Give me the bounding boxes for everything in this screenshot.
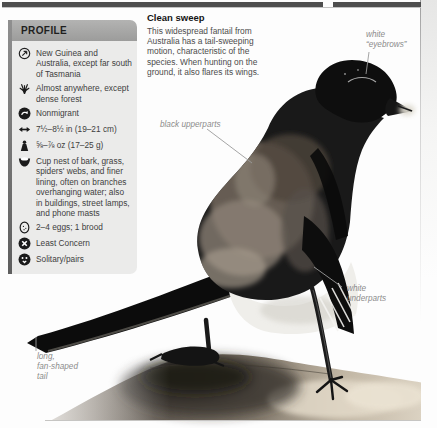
annotation-line: white: [347, 284, 386, 294]
leader-line-upperparts: [207, 129, 252, 163]
profile-item-text: Cup nest of bark, grass, spiders' webs, …: [36, 156, 132, 218]
annotation-line: tail: [37, 372, 78, 382]
profile-item-text: New Guinea and Australia, except far sou…: [36, 48, 132, 79]
profile-item-text: ⅝–⅞ oz (17–25 g): [36, 140, 103, 150]
feature-block: Clean sweep This widespread fantail from…: [147, 12, 277, 77]
profile-item-nest: Cup nest of bark, grass, spiders' webs, …: [18, 156, 132, 218]
profile-body: New Guinea and Australia, except far sou…: [12, 41, 137, 274]
page-right-margin: [421, 0, 437, 428]
profile-item-status: Least Concern: [18, 238, 132, 250]
annotation-white-eyebrows: white “eyebrows”: [366, 30, 407, 50]
annotation-line: black upperparts: [160, 120, 221, 130]
feature-body: This widespread fantail from Australia h…: [147, 26, 277, 77]
profile-item-text: 7½–8½ in (19–21 cm): [36, 124, 117, 134]
insect-in-beak: [399, 105, 415, 116]
annotation-line: long,: [37, 352, 78, 362]
annotation-line: fan-shaped: [37, 362, 78, 372]
weight-icon: [18, 139, 31, 152]
annotation-line: underparts: [347, 294, 386, 304]
social-icon: [18, 253, 31, 266]
habitat-icon: [18, 82, 31, 95]
eggs-icon: [18, 221, 31, 234]
nest-icon: [18, 155, 31, 168]
profile-item-text: Nonmigrant: [36, 108, 79, 118]
length-icon: [18, 123, 31, 136]
profile-title: PROFILE: [12, 20, 137, 41]
profile-item-weight: ⅝–⅞ oz (17–25 g): [18, 140, 132, 152]
profile-item-text: Almost anywhere, except dense forest: [36, 83, 132, 104]
page-right-margin-line: [420, 0, 421, 428]
profile-item-text: Solitary/pairs: [36, 254, 84, 264]
status-icon: [18, 237, 31, 250]
profile-item-eggs: 2–4 eggs; 1 brood: [18, 222, 132, 234]
page-top-edge-notch: [323, 2, 333, 7]
annotation-black-upperparts: black upperparts: [160, 120, 221, 130]
migration-icon: [18, 107, 31, 120]
feature-heading: Clean sweep: [147, 12, 277, 23]
profile-item-length: 7½–8½ in (19–21 cm): [18, 124, 132, 136]
annotation-line: “eyebrows”: [366, 40, 407, 50]
annotation-fan-shaped-tail: long, fan-shaped tail: [37, 352, 78, 381]
page-top-edge-shadow: [2, 7, 421, 8]
distribution-icon: [18, 47, 31, 60]
profile-item-text: Least Concern: [36, 238, 90, 248]
annotation-line: white: [366, 30, 407, 40]
profile-item-social: Solitary/pairs: [18, 254, 132, 266]
annotation-white-underparts: white underparts: [347, 284, 386, 304]
profile-item-text: 2–4 eggs; 1 brood: [36, 222, 103, 232]
profile-item-habitat: Almost anywhere, except dense forest: [18, 83, 132, 104]
profile-item-distribution: New Guinea and Australia, except far sou…: [18, 48, 132, 79]
profile-box: PROFILE New Guinea and Australia, except…: [8, 20, 137, 274]
field-guide-page: PROFILE New Guinea and Australia, except…: [0, 0, 437, 428]
profile-item-migration: Nonmigrant: [18, 108, 132, 120]
